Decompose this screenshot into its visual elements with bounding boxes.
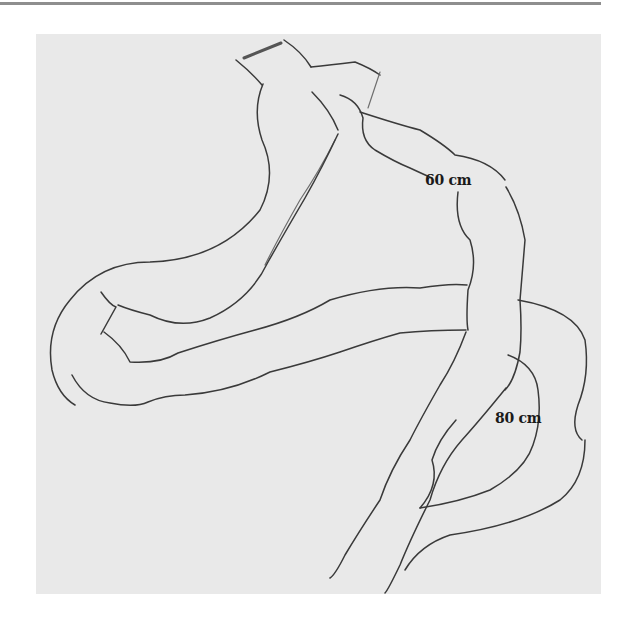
common-channel-left xyxy=(330,332,466,578)
roux-limb-left-wall xyxy=(457,192,473,330)
roux-limb-right-wall xyxy=(505,187,525,390)
jejunum-cut-end xyxy=(368,72,380,108)
jejunum-upper-wall xyxy=(311,62,380,75)
duodenum-outer-lower xyxy=(72,330,466,405)
limb-length-label-60: 60 cm xyxy=(425,172,471,188)
duodenum-inner-lower xyxy=(104,284,467,362)
limb-length-label-80: 80 cm xyxy=(495,410,541,426)
bp-limb-tip xyxy=(420,420,456,508)
pouch-right-wall xyxy=(312,92,338,130)
esophagus-left-wall xyxy=(236,60,262,85)
intestine-drawing xyxy=(0,0,630,630)
roux-limb-upper-outer xyxy=(360,112,505,180)
esophagus-cut-line xyxy=(244,43,281,58)
staple-line-inner xyxy=(118,134,338,323)
bp-limb-inner xyxy=(420,355,539,508)
esophagus-right-wall xyxy=(284,40,311,67)
anastomosis-curve xyxy=(340,95,432,178)
staple-line xyxy=(265,140,335,265)
pouch-greater-curve xyxy=(50,84,269,405)
duodenum-inner-upper xyxy=(101,292,116,334)
